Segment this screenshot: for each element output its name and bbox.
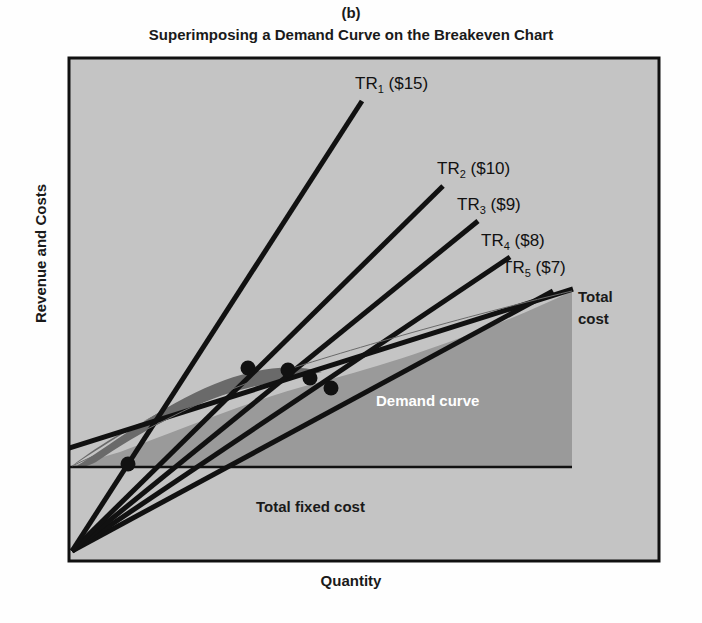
tr2-label-price: ($10) bbox=[466, 159, 510, 178]
tr2-label: TR2 ($10) bbox=[437, 159, 510, 180]
marker-dot bbox=[324, 381, 339, 396]
total-fixed-cost-label: Total fixed cost bbox=[256, 498, 365, 515]
tr3-label-text: TR bbox=[457, 195, 480, 214]
total-cost-label-line2: cost bbox=[578, 308, 613, 330]
tr4-label-price: ($8) bbox=[510, 231, 545, 250]
tr1-label-price: ($15) bbox=[384, 74, 428, 93]
tr1-label-text: TR bbox=[355, 74, 378, 93]
tr4-label-text: TR bbox=[481, 231, 504, 250]
tr5-label-price: ($7) bbox=[531, 258, 566, 277]
tr2-label-text: TR bbox=[437, 159, 460, 178]
demand-curve-label: Demand curve bbox=[376, 392, 479, 409]
tr3-label: TR3 ($9) bbox=[457, 195, 521, 216]
tr3-label-price: ($9) bbox=[486, 195, 521, 214]
marker-dot bbox=[303, 371, 318, 386]
tr4-label: TR4 ($8) bbox=[481, 231, 545, 252]
figure-root: (b) Superimposing a Demand Curve on the … bbox=[0, 0, 702, 623]
tr5-label: TR5 ($7) bbox=[502, 258, 566, 279]
tr5-label-text: TR bbox=[502, 258, 525, 277]
total-cost-label: Total cost bbox=[578, 286, 613, 330]
marker-dot bbox=[241, 361, 256, 376]
marker-dot bbox=[121, 457, 136, 472]
tr1-label: TR1 ($15) bbox=[355, 74, 428, 95]
marker-dot bbox=[281, 363, 296, 378]
total-cost-label-line1: Total bbox=[578, 286, 613, 308]
